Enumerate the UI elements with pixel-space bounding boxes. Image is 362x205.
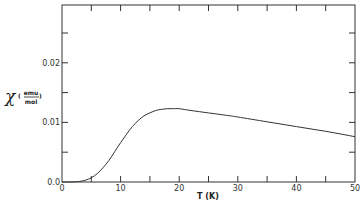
- svg-text:10: 10: [116, 184, 126, 193]
- svg-text:(: (: [18, 92, 21, 99]
- svg-text:50: 50: [350, 184, 360, 193]
- susceptibility-chart: 01020304050 0.00.010.02 T (K) χ ( emu mo…: [0, 0, 362, 205]
- plot-frame: [62, 5, 355, 182]
- svg-text:χ: χ: [4, 86, 17, 106]
- y-axis-ticks: 0.00.010.02: [42, 33, 355, 187]
- svg-text:30: 30: [233, 184, 243, 193]
- svg-text:20: 20: [174, 184, 184, 193]
- svg-text:emu: emu: [24, 89, 39, 96]
- svg-text:0.0: 0.0: [47, 178, 60, 187]
- svg-text:0: 0: [59, 184, 64, 193]
- svg-text:40: 40: [291, 184, 301, 193]
- x-axis-ticks: 01020304050: [59, 5, 360, 193]
- svg-text:mol: mol: [25, 98, 37, 105]
- svg-text:0.02: 0.02: [42, 59, 60, 68]
- svg-text:0.01: 0.01: [42, 118, 60, 127]
- svg-text:): ): [39, 92, 42, 99]
- y-axis-title: χ ( emu mol ): [4, 86, 42, 106]
- data-curve: [62, 109, 355, 182]
- x-axis-title: T (K): [197, 192, 219, 201]
